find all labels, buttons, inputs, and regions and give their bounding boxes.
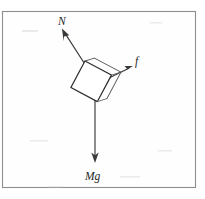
force-label-normal: N (57, 15, 67, 27)
diagram-canvas: N f Mg (0, 0, 205, 199)
force-label-weight: Mg (84, 170, 101, 183)
free-body-diagram-figure: N f Mg (0, 0, 205, 199)
